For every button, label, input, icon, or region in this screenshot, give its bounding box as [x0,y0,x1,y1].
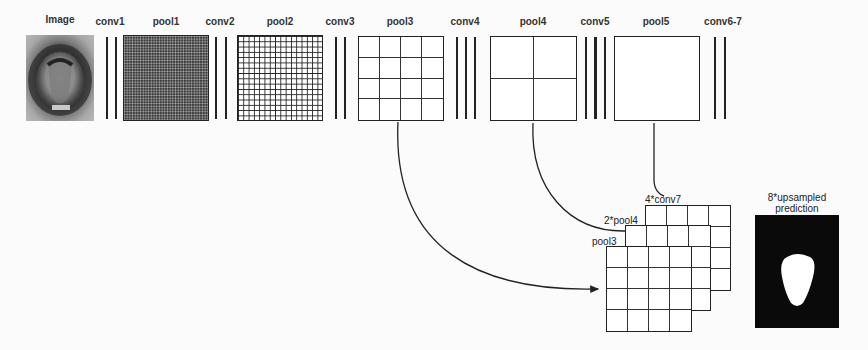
upsampled-prediction [755,215,839,328]
label-output-line2: prediction [750,203,844,214]
arrow-pool5-to-fusion [654,123,664,196]
arrow-pool3-to-fusion [398,122,598,289]
arrow-pool4-to-fusion [533,123,625,231]
label-output-line1: 8*upsampled [750,192,844,203]
connection-arrows [0,0,868,350]
prediction-mask [755,215,839,328]
